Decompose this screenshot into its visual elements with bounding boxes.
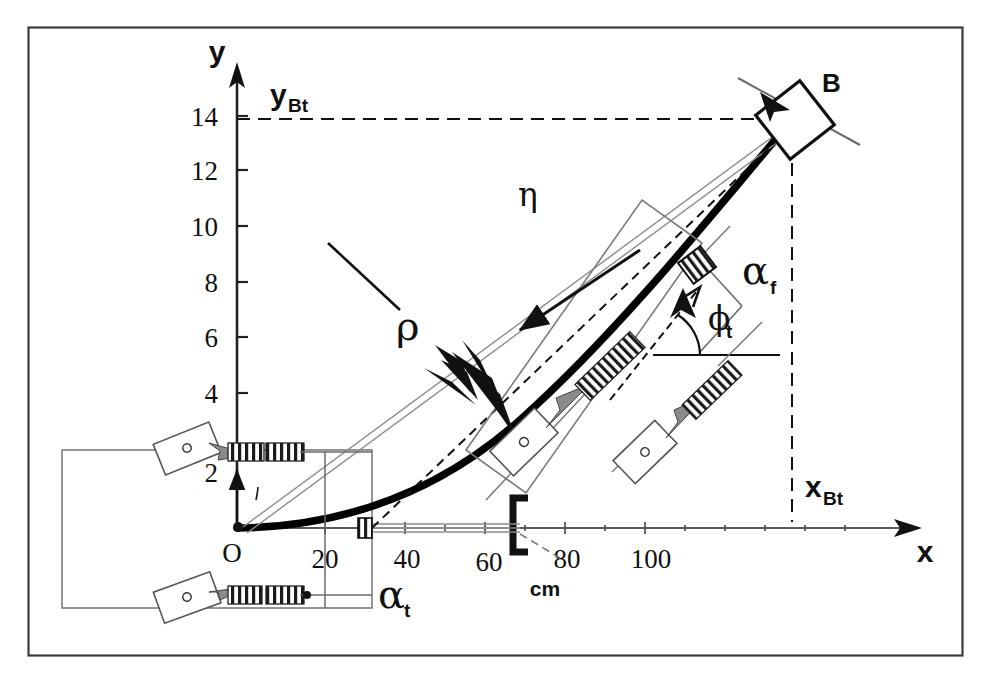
origin-label: O bbox=[222, 538, 242, 568]
alpha-f-label-main: α bbox=[742, 247, 769, 293]
y-tick-label-14: 14 bbox=[191, 102, 219, 132]
x-bt-label-main: x bbox=[805, 470, 822, 503]
y-tick-label-8: 8 bbox=[205, 268, 219, 298]
alpha-t-label-sub: t bbox=[404, 600, 411, 621]
phi-t-label-sub: t bbox=[726, 321, 733, 342]
phi-t-label: ϕ t bbox=[708, 299, 733, 342]
actuator-hatch-4a bbox=[228, 443, 264, 461]
rho-label: ρ bbox=[396, 303, 420, 349]
actuator-hatch-4b bbox=[266, 443, 304, 461]
x-tick-label-100: 100 bbox=[631, 544, 672, 574]
x-axis-label: x bbox=[917, 535, 934, 568]
y-bt-label-sub: Bt bbox=[288, 95, 309, 116]
alpha-t-label-main: α bbox=[378, 571, 405, 617]
point-b-label: B bbox=[822, 68, 841, 98]
x-tick-label-60: 60 bbox=[476, 547, 503, 577]
y-tick-label-4: 4 bbox=[205, 379, 219, 409]
y-tick-label-12: 12 bbox=[191, 156, 218, 186]
mechanism-diagram: 14 12 10 8 6 4 2 20 40 60 80 100 y x O c… bbox=[0, 0, 984, 681]
actuator-hatch-5a bbox=[228, 586, 262, 604]
x-bt-label-sub: Bt bbox=[823, 488, 844, 509]
actuator-hatch-5b bbox=[266, 586, 304, 604]
y-tick-label-6: 6 bbox=[205, 323, 219, 353]
y-bt-label-main: y bbox=[270, 78, 287, 111]
unit-label-cm: cm bbox=[530, 577, 560, 600]
y-tick-label-2: 2 bbox=[205, 458, 219, 488]
beam-base-clamp-block bbox=[358, 518, 372, 538]
alpha-f-label-sub: f bbox=[770, 277, 777, 298]
figure-page: 14 12 10 8 6 4 2 20 40 60 80 100 y x O c… bbox=[0, 0, 984, 681]
x-tick-label-80: 80 bbox=[554, 544, 581, 574]
eta-label: η bbox=[518, 175, 538, 214]
x-tick-label-40: 40 bbox=[394, 544, 421, 574]
actuator-pivot-5 bbox=[303, 591, 311, 599]
y-axis-label: y bbox=[209, 35, 226, 68]
y-tick-label-10: 10 bbox=[191, 212, 218, 242]
